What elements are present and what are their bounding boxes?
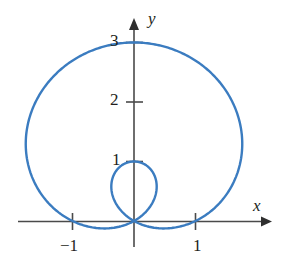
polar-curve-figure: 3 2 1 −1 1 y x <box>0 0 283 278</box>
x-axis-label: x <box>253 197 261 214</box>
y-axis-tick-label-2: 2 <box>110 91 119 108</box>
plot-canvas <box>0 0 283 278</box>
x-axis-arrowhead <box>261 217 272 227</box>
x-axis-tick-label-1: 1 <box>193 237 202 254</box>
y-axis-tick-label-3: 3 <box>110 32 119 49</box>
y-axis-tick-label-1: 1 <box>112 151 121 168</box>
y-axis-arrowhead <box>129 18 139 30</box>
y-axis-label: y <box>148 10 156 27</box>
x-axis-tick-label-neg1: −1 <box>60 237 78 254</box>
